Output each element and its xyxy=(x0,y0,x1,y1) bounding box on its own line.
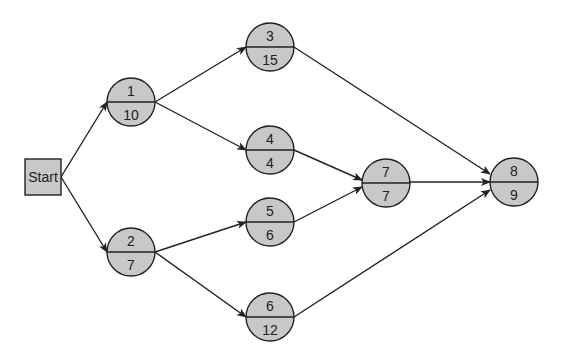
edge-6-8 xyxy=(294,190,490,317)
node-6-id: 6 xyxy=(266,298,274,314)
node-1: 1 10 xyxy=(107,78,155,126)
node-1-duration: 10 xyxy=(123,107,139,123)
edge-2-5 xyxy=(155,222,246,252)
edge-1-4 xyxy=(155,102,246,150)
node-3-duration: 15 xyxy=(262,52,278,68)
node-7: 7 7 xyxy=(362,159,410,207)
node-5-id: 5 xyxy=(266,203,274,219)
node-5: 5 6 xyxy=(246,198,294,246)
node-4: 4 4 xyxy=(246,126,294,174)
node-6-duration: 12 xyxy=(262,322,278,338)
node-2-duration: 7 xyxy=(127,257,135,273)
edge-3-8 xyxy=(294,47,490,174)
node-7-duration: 7 xyxy=(382,188,390,204)
node-2-id: 2 xyxy=(127,233,135,249)
node-5-duration: 6 xyxy=(266,227,274,243)
edge-1-3 xyxy=(155,47,246,102)
node-4-duration: 4 xyxy=(266,155,274,171)
node-2: 2 7 xyxy=(107,228,155,276)
node-8-duration: 9 xyxy=(510,187,518,203)
node-7-id: 7 xyxy=(382,164,390,180)
edge-start-1 xyxy=(61,102,107,177)
start-label: Start xyxy=(28,169,58,185)
node-3: 3 15 xyxy=(246,23,294,71)
edge-start-2 xyxy=(61,177,107,252)
node-4-id: 4 xyxy=(266,131,274,147)
node-8-id: 8 xyxy=(510,163,518,179)
edge-2-6 xyxy=(155,252,246,317)
node-1-id: 1 xyxy=(127,83,135,99)
start-node: Start xyxy=(25,159,61,195)
edge-4-7 xyxy=(294,150,362,180)
network-diagram: Start 1 10 2 7 3 15 4 4 5 6 6 12 xyxy=(0,0,566,359)
edge-5-7 xyxy=(294,187,362,222)
node-3-id: 3 xyxy=(266,28,274,44)
node-8: 8 9 xyxy=(490,158,538,206)
node-6: 6 12 xyxy=(246,293,294,341)
